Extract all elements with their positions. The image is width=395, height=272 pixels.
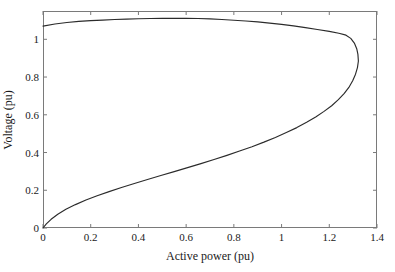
y-tick-label: 0.6	[25, 109, 39, 120]
plot-area-frame	[43, 11, 377, 228]
y-tick-label: 0.2	[25, 185, 39, 196]
y-tick-label: 0.4	[25, 147, 39, 158]
y-tick-label: 0.8	[25, 72, 39, 83]
x-tick-label: 0.2	[84, 232, 98, 243]
y-tick-label: 0	[34, 223, 40, 234]
x-tick-label: 0.4	[132, 232, 146, 243]
chart-figure: 00.20.40.60.811.21.4 00.20.40.60.81 Acti…	[0, 0, 395, 272]
y-axis-title-text: Voltage (pu)	[2, 90, 14, 149]
y-tick-label: 1	[34, 34, 40, 45]
x-tick-label: 0	[40, 232, 46, 243]
y-axis-title: Voltage (pu)	[0, 11, 16, 228]
x-tick-label: 0.8	[227, 232, 241, 243]
x-tick-label: 1.2	[322, 232, 336, 243]
x-tick-label: 1	[279, 232, 285, 243]
x-axis-title: Active power (pu)	[43, 250, 377, 262]
x-tick-label: 1.4	[370, 232, 384, 243]
x-tick-label: 0.6	[179, 232, 193, 243]
